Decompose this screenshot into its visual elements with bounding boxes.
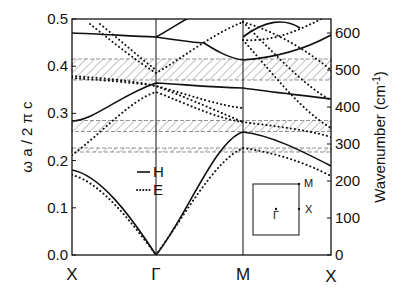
ytick-4: 0.4	[47, 57, 68, 74]
xtick-x-right: X	[325, 267, 336, 286]
band-structure-chart: 0.0 0.1 0.2 0.3 0.4 0.5 0 100 200 300 40…	[0, 0, 408, 299]
legend-e-label: E	[153, 181, 163, 198]
gap-band-middle	[72, 121, 331, 132]
rtick-3: 300	[335, 135, 360, 152]
rtick-5: 500	[335, 61, 360, 78]
y-axis-title: ω a / 2 π c	[18, 101, 35, 173]
gap-band-narrow	[72, 148, 331, 152]
left-tick-labels: 0.0 0.1 0.2 0.3 0.4 0.5	[47, 10, 68, 263]
xtick-m: M	[236, 265, 250, 284]
legend-h-label: H	[153, 163, 164, 180]
xtick-gamma: Γ	[151, 265, 160, 284]
plot-frame	[72, 19, 331, 255]
inset-gamma-label: Γ	[273, 209, 279, 221]
inset-m-label: M	[304, 177, 313, 189]
rtick-4: 400	[335, 98, 360, 115]
right-tick-labels: 0 100 200 300 400 500 600	[335, 24, 360, 263]
rtick-0: 0	[335, 246, 343, 263]
brillouin-zone-inset: Γ X M	[253, 177, 313, 235]
series-h	[72, 10, 331, 255]
ytick-3: 0.3	[47, 104, 68, 121]
ytick-1: 0.1	[47, 199, 68, 216]
rtick-6: 600	[335, 24, 360, 41]
xtick-x-left: X	[66, 265, 77, 284]
rtick-1: 100	[335, 209, 360, 226]
y-axis-title-right: Wavenumber (cm-1)	[371, 71, 388, 203]
ytick-0: 0.0	[47, 246, 68, 263]
x-tick-labels: X Γ M X	[66, 265, 336, 286]
rtick-2: 200	[335, 172, 360, 189]
gap-band-upper	[72, 59, 331, 80]
legend: H E	[137, 163, 164, 198]
ytick-5: 0.5	[47, 10, 68, 27]
ytick-2: 0.2	[47, 152, 68, 169]
series-e	[72, 14, 331, 255]
inset-x-label: X	[305, 203, 313, 215]
